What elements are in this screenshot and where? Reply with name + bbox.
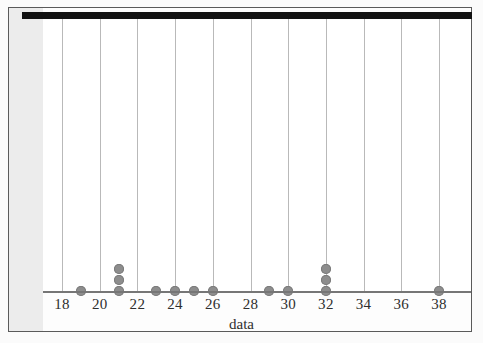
gridline-32 bbox=[326, 19, 327, 292]
gridline-30 bbox=[288, 19, 289, 292]
x-axis-title: data bbox=[0, 316, 483, 333]
gridline-22 bbox=[137, 19, 138, 292]
data-point bbox=[114, 275, 124, 285]
gridline-18 bbox=[62, 19, 63, 292]
data-point bbox=[321, 264, 331, 274]
data-point bbox=[321, 275, 331, 285]
x-axis-line bbox=[43, 291, 471, 293]
gridline-28 bbox=[251, 19, 252, 292]
gridline-36 bbox=[401, 19, 402, 292]
tick-label-38: 38 bbox=[417, 296, 461, 313]
data-point bbox=[114, 264, 124, 274]
gridline-20 bbox=[100, 19, 101, 292]
scanned-page: 1820222426283032343638 data bbox=[0, 0, 483, 343]
gridline-24 bbox=[175, 19, 176, 292]
page-margin-strip bbox=[9, 8, 43, 331]
top-black-bar bbox=[22, 12, 472, 19]
gridline-38 bbox=[439, 19, 440, 292]
gridline-34 bbox=[364, 19, 365, 292]
gridline-26 bbox=[213, 19, 214, 292]
plot-area bbox=[43, 19, 471, 292]
